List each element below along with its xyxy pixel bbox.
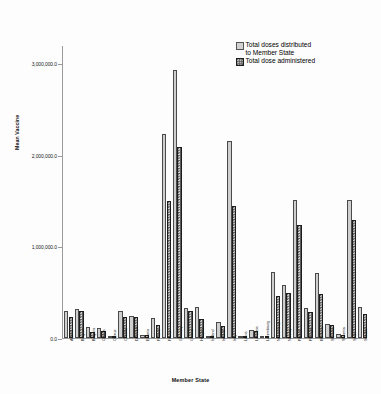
bar-group: Netherlands	[271, 46, 280, 338]
chart-legend: Total doses distributedto Member StateTo…	[236, 41, 378, 67]
x-axis-category-label: Latvia	[244, 331, 248, 341]
bar-group: Estonia	[140, 46, 149, 338]
x-axis-category-label: Germany	[179, 326, 183, 341]
x-axis-category-label: Finland	[157, 329, 161, 341]
bar-administered[interactable]	[167, 201, 171, 338]
bar-group: Iceland	[206, 46, 215, 338]
x-axis-category-label: Croatia	[102, 329, 106, 341]
x-axis-category-label: Norway	[288, 329, 292, 341]
bar-group: Norway	[282, 46, 291, 338]
x-axis-category-label: Cyprus	[113, 330, 117, 341]
bar-group: Lithuania	[249, 46, 258, 338]
y-axis-title: Mean Vaccine	[14, 30, 20, 150]
bar-group: Poland	[293, 46, 302, 338]
x-axis-category-label: Ireland	[222, 330, 226, 341]
x-axis-category-label: Lithuania	[255, 326, 259, 341]
bar-administered[interactable]	[297, 225, 301, 338]
x-axis-category-label: Greece	[190, 329, 194, 341]
bar-group: Luxembourg	[260, 46, 269, 338]
bar-group: Denmark	[129, 46, 138, 338]
x-axis-category-label: Estonia	[146, 329, 150, 341]
x-axis-category-label: Portugal	[309, 328, 313, 341]
bar-group: Italy	[227, 46, 236, 338]
bar-group: Portugal	[304, 46, 313, 338]
bar-group: Latvia	[238, 46, 247, 338]
y-axis-tick-label: 0.0	[50, 336, 57, 342]
y-axis-tick-label: 1,000,000.0	[32, 244, 57, 250]
x-axis-category-label: Poland	[298, 330, 302, 341]
bar-group: Ireland	[216, 46, 225, 338]
bar-group: Slovenia	[336, 46, 345, 338]
legend-swatch-distributed	[236, 42, 244, 50]
x-axis-title: Member State	[0, 377, 381, 383]
bar-administered[interactable]	[177, 147, 181, 338]
y-axis-tick	[58, 64, 62, 65]
x-axis-category-label: Iceland	[211, 329, 215, 341]
x-axis-category-label: Netherlands	[277, 322, 281, 341]
bar-group: Austria	[64, 46, 73, 338]
bar-group: Slovakia	[325, 46, 334, 338]
bar-group: Sweden	[358, 46, 367, 338]
y-axis-tick-label: 2,000,000.0	[32, 153, 57, 159]
x-axis-category-label: Spain	[353, 332, 357, 341]
bar-group: Germany	[173, 46, 182, 338]
x-axis-category-label: Denmark	[135, 326, 139, 341]
bar-group: Belgium	[75, 46, 84, 338]
x-axis-category-label: France	[168, 330, 172, 341]
plot-area: 0.01,000,000.02,000,000.03,000,000.0 Aus…	[62, 46, 367, 339]
x-axis-category-label: Bulgaria	[92, 328, 96, 341]
bar-administered[interactable]	[352, 220, 356, 338]
legend-label: Total doses distributedto Member State	[246, 41, 312, 56]
x-axis-category-label: Luxembourg	[266, 321, 270, 341]
y-axis-tick-label: 3,000,000.0	[32, 61, 57, 67]
bar-chart: Mean Vaccine 0.01,000,000.02,000,000.03,…	[0, 0, 381, 394]
legend-label: Total dose administered	[246, 57, 316, 65]
bar-group: Hungary	[195, 46, 204, 338]
x-axis-category-label: Romania	[320, 327, 324, 341]
x-axis-category-label: Czechia	[124, 328, 128, 341]
x-axis-category-label: Slovenia	[342, 327, 346, 341]
bar-group: Cyprus	[108, 46, 117, 338]
y-axis-tick	[58, 247, 62, 248]
bar-series-container: AustriaBelgiumBulgariaCroatiaCyprusCzech…	[63, 46, 367, 338]
bar-group: Greece	[184, 46, 193, 338]
bar-group: Bulgaria	[86, 46, 95, 338]
legend-swatch-administered	[236, 58, 244, 66]
x-axis-category-label: Austria	[70, 330, 74, 341]
y-axis-tick	[58, 156, 62, 157]
bar-group: Czechia	[118, 46, 127, 338]
bar-administered[interactable]	[232, 206, 236, 338]
legend-item[interactable]: Total doses distributedto Member State	[236, 41, 378, 56]
bar-group: Finland	[151, 46, 160, 338]
x-axis-category-label: Belgium	[81, 328, 85, 341]
x-axis-category-label: Sweden	[364, 328, 368, 341]
bar-group: France	[162, 46, 171, 338]
bar-group: Romania	[315, 46, 324, 338]
x-axis-category-label: Hungary	[200, 327, 204, 341]
bar-group: Croatia	[97, 46, 106, 338]
bar-group: Spain	[347, 46, 356, 338]
legend-item[interactable]: Total dose administered	[236, 57, 378, 66]
x-axis-category-label: Italy	[233, 334, 237, 341]
x-axis-category-label: Slovakia	[331, 327, 335, 341]
y-axis-tick	[58, 339, 62, 340]
